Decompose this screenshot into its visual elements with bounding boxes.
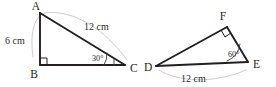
angle-arc-c <box>104 53 107 65</box>
measure-label-ac: 12 cm <box>84 21 109 32</box>
triangle-def-group: D E F 12 cm 60° <box>144 10 260 84</box>
vertex-label-c: C <box>130 62 138 74</box>
side-de <box>156 62 248 66</box>
angle-label-c: 30° <box>92 54 103 63</box>
measure-label-de: 12 cm <box>181 73 206 84</box>
geometry-figure: A B C 6 cm 12 cm 30° D E <box>0 0 276 87</box>
vertex-label-d: D <box>144 61 152 73</box>
side-df <box>156 27 227 66</box>
triangle-abc-group: A B C 6 cm 12 cm 30° <box>5 0 138 80</box>
vertex-label-e: E <box>253 58 260 70</box>
measure-label-ab: 6 cm <box>5 35 25 46</box>
right-angle-mark-b <box>40 58 47 65</box>
vertex-label-f: F <box>220 10 226 22</box>
vertex-label-b: B <box>30 68 38 80</box>
vertex-label-a: A <box>32 0 41 12</box>
angle-label-e: 60° <box>228 50 239 59</box>
figure-canvas: A B C 6 cm 12 cm 30° D E <box>0 0 276 87</box>
